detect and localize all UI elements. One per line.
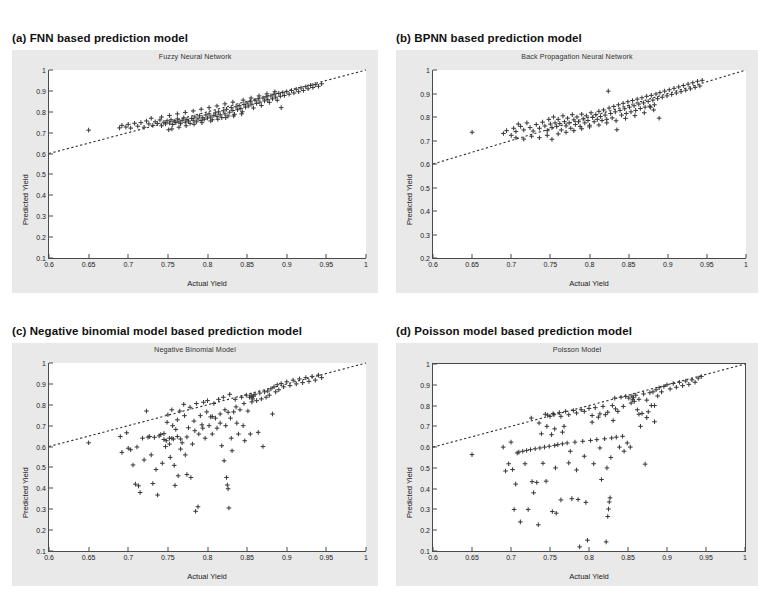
panel-a-title: Fuzzy Neural Network [12,52,378,61]
x-tick-mark [628,547,629,551]
y-tick-label: 0.3 [36,213,49,220]
y-tick-label: 0.8 [36,401,49,408]
y-tick-label: 0.5 [36,464,49,471]
y-tick-mark [49,111,53,112]
x-tick-mark [128,254,129,258]
x-tick-label: 0.95 [700,258,714,268]
x-tick-label: 0.9 [663,258,673,268]
y-tick-label: 0.4 [420,485,433,492]
x-tick-label: 0.95 [320,258,334,268]
x-tick-mark [49,254,50,258]
panel-d-ylabel: Predicted Yield [405,467,414,518]
y-tick-mark [433,364,437,365]
scatter-points [470,374,704,549]
y-tick-mark [49,174,53,175]
x-tick-mark [49,547,50,551]
x-tick-label: 1 [364,551,368,561]
panel-d-plotbox: Poisson Model 0.10.20.30.40.50.60.70.80.… [396,343,758,586]
panel-c-ylabel: Predicted Yield [21,467,30,518]
x-tick-mark [667,254,668,258]
y-tick-label: 0.8 [420,402,433,409]
x-tick-mark [207,254,208,258]
x-tick-label: 0.7 [123,258,133,268]
x-tick-mark [366,547,367,551]
x-tick-label: 0.75 [161,258,175,268]
y-tick-label: 0.7 [36,422,49,429]
x-tick-mark [433,547,434,551]
y-tick-label: 0.9 [36,87,49,94]
x-tick-mark [746,254,747,258]
y-tick-mark [49,383,53,384]
panel-c-axes: 0.10.20.30.40.50.60.70.80.910.60.650.70.… [48,363,366,552]
x-tick-mark [667,547,668,551]
x-tick-label: 0.65 [465,258,479,268]
panel-a-caption: (a) FNN based prediction model [12,32,378,45]
x-tick-mark [706,547,707,551]
y-tick-label: 1 [42,360,49,367]
x-tick-mark [247,254,248,258]
y-tick-label: 0.6 [420,161,433,168]
panel-b-scatter [433,70,746,258]
x-tick-label: 0.65 [82,258,96,268]
x-tick-label: 0.7 [123,551,133,561]
panel-c-scatter [49,363,366,551]
y-tick-label: 0.6 [36,443,49,450]
y-tick-mark [49,153,53,154]
y-tick-label: 0.9 [420,381,433,388]
y-tick-mark [49,363,53,364]
panel-b-plotbox: Back Propagation Neural Network 0.20.30.… [396,50,758,293]
y-tick-label: 1 [42,67,49,74]
y-tick-mark [49,195,53,196]
y-tick-label: 0.5 [36,171,49,178]
y-tick-label: 0.2 [420,527,433,534]
panel-c-xlabel: Actual Yield [48,572,366,581]
y-tick-mark [433,447,437,448]
y-tick-label: 0.6 [36,150,49,157]
y-tick-mark [433,140,437,141]
scatter-points [470,78,705,142]
y-tick-mark [433,70,437,71]
panel-d: (d) Poisson model based prediction model… [396,325,758,586]
scatter-points [86,373,324,514]
identity-reference-line [49,70,366,154]
x-tick-label: 0.9 [282,551,292,561]
y-tick-mark [433,384,437,385]
panel-d-xlabel: Actual Yield [432,572,746,581]
y-tick-mark [433,509,437,510]
y-tick-label: 0.2 [36,527,49,534]
x-tick-mark [167,547,168,551]
x-tick-label: 0.85 [240,258,254,268]
panel-a-plotbox: Fuzzy Neural Network 0.10.20.30.40.50.60… [12,50,378,293]
y-tick-mark [49,70,53,71]
y-tick-mark [433,187,437,188]
y-tick-mark [49,488,53,489]
y-tick-mark [49,467,53,468]
panel-b-caption: (b) BPNN based prediction model [396,32,758,45]
y-tick-mark [433,234,437,235]
y-tick-label: 0.7 [420,423,433,430]
x-tick-label: 0.8 [203,258,213,268]
panel-b-xlabel: Actual Yield [432,279,746,288]
y-tick-mark [433,488,437,489]
x-tick-mark [511,254,512,258]
panel-d-caption: (d) Poisson model based prediction model [396,325,758,338]
x-tick-mark [88,254,89,258]
y-tick-mark [433,117,437,118]
y-tick-label: 0.5 [420,464,433,471]
x-tick-label: 0.8 [203,551,213,561]
x-tick-label: 0.6 [428,551,438,561]
x-tick-mark [745,547,746,551]
x-tick-mark [550,547,551,551]
panel-b-axes: 0.20.30.40.50.60.70.80.910.60.650.70.750… [432,70,746,259]
y-tick-label: 0.3 [420,506,433,513]
x-tick-label: 0.6 [44,258,54,268]
panel-b: (b) BPNN based prediction model Back Pro… [396,32,758,293]
y-tick-mark [49,530,53,531]
y-tick-label: 0.7 [420,137,433,144]
panel-d-title: Poisson Model [396,345,758,354]
y-tick-label: 0.8 [420,114,433,121]
x-tick-label: 0.8 [585,258,595,268]
panel-a: (a) FNN based prediction model Fuzzy Neu… [12,32,378,293]
identity-reference-line [433,70,746,164]
figure-root: (a) FNN based prediction model Fuzzy Neu… [0,0,770,609]
